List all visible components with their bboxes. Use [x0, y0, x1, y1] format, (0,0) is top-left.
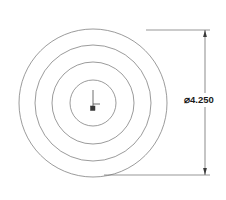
dimension-arrowhead-bottom: [203, 168, 207, 175]
center-mark: [91, 90, 101, 111]
center-mark-square: [91, 106, 96, 111]
diameter-dimension-text: ⌀4.250: [184, 95, 214, 105]
engineering-drawing-canvas: ⌀4.250: [0, 0, 226, 200]
dimension-arrowhead-top: [203, 30, 207, 37]
